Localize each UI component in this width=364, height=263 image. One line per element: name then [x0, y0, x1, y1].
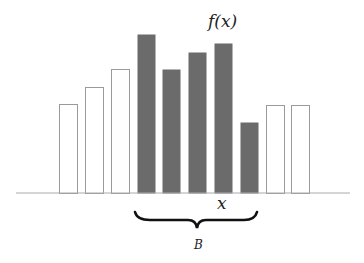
bar-outline	[86, 88, 104, 194]
histogram-diagram: f(x) x B	[0, 0, 364, 263]
bar-highlighted	[215, 44, 233, 194]
bar-highlighted	[163, 70, 181, 194]
bar-outline	[112, 70, 130, 194]
x-axis-label: x	[217, 193, 227, 213]
bar-outline	[267, 106, 285, 194]
brace-label: B	[193, 238, 203, 252]
bar-highlighted	[241, 123, 259, 194]
function-label: f(x)	[206, 11, 237, 31]
bars-group	[60, 35, 310, 194]
brace-B	[135, 212, 257, 228]
bar-highlighted	[189, 53, 207, 194]
bar-outline	[292, 106, 310, 194]
bar-highlighted	[138, 35, 156, 194]
bar-outline	[60, 105, 78, 194]
